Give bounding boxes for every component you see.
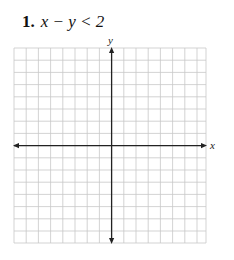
coordinate-grid: y x [0, 0, 234, 260]
x-axis-label: x [209, 139, 215, 151]
y-axis-label: y [107, 34, 113, 46]
